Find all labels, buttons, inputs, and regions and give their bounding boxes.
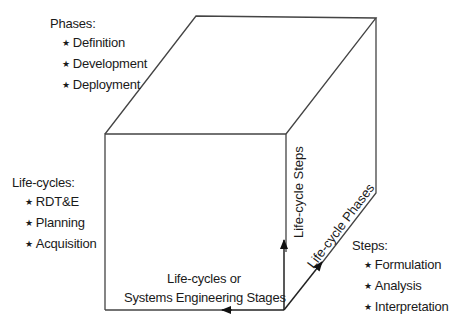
vertical-axis-label: Life-cycle Steps [291,146,306,238]
star-icon: ★ [364,281,372,291]
life-cycle-item: ★Acquisition [12,234,96,255]
step-item: ★Interpretation [352,297,449,318]
phases-list: Phases: ★Definition ★Development ★Deploy… [50,14,147,96]
phase-item: ★Definition [50,33,147,54]
phase-item: ★Deployment [50,75,147,96]
star-icon: ★ [25,197,33,207]
star-icon: ★ [25,218,33,228]
phases-title: Phases: [50,14,147,33]
star-icon: ★ [62,38,70,48]
steps-title: Steps: [352,236,449,255]
star-icon: ★ [62,80,70,90]
horizontal-axis-label: Life-cycles or Systems Engineering Stage… [124,269,284,307]
life-cycle-item: ★RDT&E [12,192,96,213]
steps-list: Steps: ★Formulation ★Analysis ★Interpret… [352,236,449,318]
life-cycle-item: ★Planning [12,213,96,234]
phase-item: ★Development [50,54,147,75]
step-item: ★Analysis [352,276,449,297]
step-item: ★Formulation [352,255,449,276]
star-icon: ★ [364,302,372,312]
life-cycles-title: Life-cycles: [12,173,96,192]
life-cycles-list: Life-cycles: ★RDT&E ★Planning ★Acquisiti… [12,173,96,255]
star-icon: ★ [364,260,372,270]
star-icon: ★ [25,239,33,249]
star-icon: ★ [62,59,70,69]
